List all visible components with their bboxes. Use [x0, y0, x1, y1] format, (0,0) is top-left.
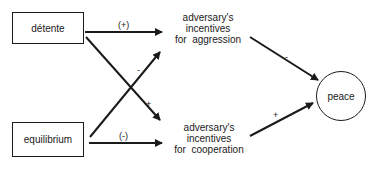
sign-cooperation-peace: + [273, 110, 278, 120]
node-aggression-line3: for aggression [160, 34, 256, 45]
node-cooperation-line2: incentives [160, 133, 258, 144]
sign-equilibrium-aggression: - [137, 65, 140, 75]
node-cooperation-line3: for cooperation [160, 144, 258, 155]
node-equilibrium-label: equilibrium [24, 134, 72, 145]
node-detente-label: détente [31, 23, 64, 34]
node-peace: peace [316, 71, 366, 121]
sign-equilibrium-cooperation: (-) [119, 131, 128, 141]
node-detente: détente [12, 12, 84, 44]
edge-cooperation-peace [250, 103, 313, 136]
node-aggression-line1: adversary's [160, 12, 256, 23]
sign-detente-aggression: (+) [118, 20, 129, 30]
node-cooperation-line1: adversary's [160, 122, 258, 133]
node-cooperation: adversary's incentives for cooperation [160, 122, 258, 155]
edge-equilibrium-aggression [90, 52, 160, 137]
node-aggression: adversary's incentives for aggression [160, 12, 256, 45]
edge-aggression-peace [250, 37, 318, 80]
node-aggression-line2: incentives [160, 23, 256, 34]
node-peace-label: peace [327, 91, 354, 102]
sign-detente-cooperation: + [146, 99, 151, 109]
node-equilibrium: equilibrium [12, 122, 84, 157]
sign-aggression-peace: - [285, 52, 288, 62]
